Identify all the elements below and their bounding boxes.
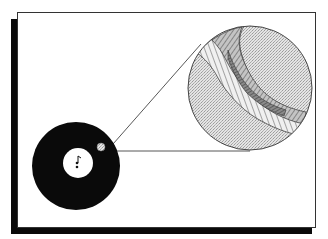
vinyl-record-icon xyxy=(32,122,120,210)
highlight-spot xyxy=(97,143,105,151)
record-groove-diagram: Record groove magnified xyxy=(0,0,328,239)
diagram-canvas xyxy=(0,0,328,239)
